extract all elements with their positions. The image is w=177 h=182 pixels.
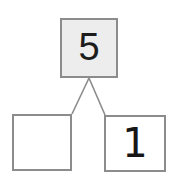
part-box-left[interactable]: [12, 114, 72, 171]
part-box-right[interactable]: 1: [104, 115, 166, 172]
connector-whole-to-right-part: [89, 78, 105, 115]
whole-box[interactable]: 5: [60, 18, 118, 78]
whole-value: 5: [78, 28, 99, 68]
connector-whole-to-left-part: [72, 78, 89, 114]
number-bond-diagram: 5 1: [0, 0, 177, 182]
part-right-value: 1: [122, 123, 147, 164]
